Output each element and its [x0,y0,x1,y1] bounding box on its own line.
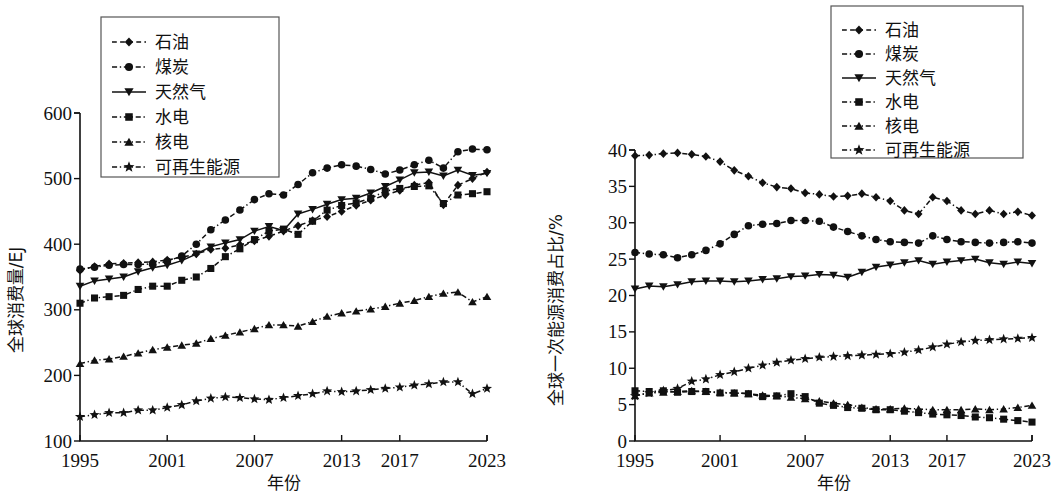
data-point [135,286,142,293]
series-group [630,149,1037,426]
chart-svg-left: 1002003004005006001995200120072013201720… [0,0,530,497]
data-point [134,261,142,269]
data-point [886,238,894,246]
data-point [207,226,215,234]
x-tick-label-2017: 2017 [928,450,966,471]
data-point [353,199,360,206]
x-tick-label-2001: 2001 [148,450,186,471]
y-tick-label-10: 10 [608,358,627,379]
y-tick-label-400: 400 [44,234,73,255]
data-point [745,222,753,230]
data-point [467,388,477,398]
data-point [929,193,937,202]
data-point [645,250,653,258]
data-point [164,283,171,290]
x-tick-label-2023: 2023 [468,450,506,471]
data-point [1000,416,1007,423]
x-tick-label-2001: 2001 [701,450,739,471]
data-point [381,303,390,310]
y-tick-label-30: 30 [608,212,627,233]
data-point [885,348,895,358]
data-point [986,239,994,247]
data-point [730,231,738,239]
legend: 石油煤炭天然气水电核电可再生能源 [831,6,1023,160]
data-point [830,192,838,201]
data-point [382,188,389,195]
legend-label-天然气: 天然气 [885,68,936,88]
data-point [872,193,880,202]
data-point [220,392,230,402]
data-point [986,414,993,421]
data-point [857,350,867,360]
series-核电 [631,387,1037,413]
data-point [928,342,938,352]
y-tick-label-500: 500 [44,168,73,189]
chart-panel-left: 1002003004005006001995200120072013201720… [0,0,530,497]
axes-group: 0510152025303540199520012007201320172023… [546,140,1051,494]
data-point [104,408,114,418]
data-point [380,383,390,393]
data-point [716,240,724,248]
data-point [280,226,287,233]
data-point [773,183,781,192]
y-tick-label-25: 25 [608,249,627,270]
data-point [265,190,273,198]
legend-marker-circle [125,63,133,71]
y-tick-label-20: 20 [608,285,627,306]
data-point [830,223,838,231]
series-核电 [76,288,492,367]
data-point [236,245,243,252]
data-point [250,228,259,235]
data-point [901,239,909,247]
legend-marker-circle [855,50,863,58]
series-line-石油 [635,153,1032,216]
y-tick-label-35: 35 [608,176,627,197]
x-tick-label-2013: 2013 [871,450,909,471]
data-point [308,388,318,398]
y-axis-title: 全球一次能源消费占比/% [546,214,566,406]
series-石油 [631,149,1036,220]
data-point [119,352,128,359]
data-point [956,337,966,347]
x-tick-label-2017: 2017 [381,450,419,471]
data-point [843,351,853,361]
legend-label-石油: 石油 [885,20,919,40]
x-tick-label-1995: 1995 [616,450,654,471]
data-point [773,220,781,228]
data-point [787,217,795,225]
legend-label-可再生能源: 可再生能源 [885,140,970,160]
data-point [265,228,272,235]
data-point [251,196,259,204]
data-point [222,216,230,224]
data-point [105,261,113,269]
x-tick-label-2007: 2007 [786,450,824,471]
legend-label-煤炭: 煤炭 [885,44,919,64]
data-point [76,300,83,307]
data-point [322,386,332,396]
data-point [716,157,724,166]
data-point [338,161,346,169]
data-point [76,283,85,290]
series-line-可再生能源 [635,338,1032,396]
series-天然气 [631,256,1037,293]
data-point [1014,208,1022,217]
data-point [871,349,881,359]
data-point [367,166,375,174]
data-point [957,238,965,246]
x-tick-label-2007: 2007 [235,450,273,471]
data-point [1013,333,1023,343]
data-point [814,352,824,362]
data-point [293,390,303,400]
legend-marker-square [855,98,863,106]
data-point [801,189,809,198]
data-point [743,363,753,373]
data-point [366,385,376,395]
data-point [91,263,99,271]
data-point [1028,239,1036,247]
data-point [395,382,405,392]
data-point [294,181,302,189]
data-point [324,207,331,214]
data-point [76,265,84,273]
data-point [872,236,880,244]
data-point [177,341,186,348]
